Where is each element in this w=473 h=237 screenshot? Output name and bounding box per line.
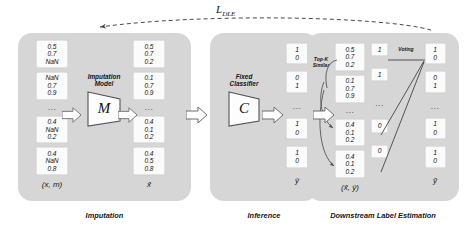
fixed-classifier-title-line1: Fixed — [236, 73, 253, 80]
arrow-imputation-to-inference — [186, 106, 208, 124]
fixed-classifier-shape: C — [225, 88, 263, 128]
vector-block: 0.10.70.9 — [133, 72, 165, 100]
vector-ellipsis: ⋯ — [48, 107, 57, 113]
vector-block: 10 — [286, 118, 308, 139]
vector-value: 0 — [295, 54, 299, 62]
vector-block: 10 — [425, 118, 446, 139]
vector-block: 1 — [371, 43, 388, 56]
vector-stack-label: (x̂, ŷ) — [341, 183, 359, 192]
vector-value: 0.2 — [145, 133, 154, 141]
arrow-inference-to-downstream — [313, 106, 335, 124]
vector-value: 1 — [295, 149, 299, 157]
vector-value: 0.9 — [346, 92, 355, 100]
imputation-model-title-line1: Imputation — [88, 73, 121, 80]
vector-value: 0.4 — [346, 153, 355, 161]
vector-value: 0.4 — [48, 118, 57, 126]
vector-value: 1 — [295, 82, 299, 90]
caption-inference: Inference — [210, 211, 318, 220]
vector-value: 1 — [433, 149, 437, 157]
vector-stack-label: (x, m) — [42, 180, 62, 189]
vector-value: 0.2 — [346, 61, 355, 69]
vector-value: 1 — [378, 46, 382, 54]
vector-block: 0.40.10.2 — [335, 150, 365, 178]
vector-block: 01 — [425, 71, 446, 92]
imputation-model-title-line2: Model — [95, 80, 113, 87]
vector-stack-label: x̂ — [147, 180, 151, 189]
annotation-voting: Voting — [388, 47, 424, 53]
vector-block: 10 — [286, 146, 308, 167]
vector-value: 0.4 — [346, 121, 355, 129]
stack-final-y-tilde: 1001⋯1010ỹ — [424, 43, 446, 185]
vector-value: 0.4 — [145, 150, 154, 158]
vector-stack-label: ỹ — [433, 176, 437, 185]
vector-block: 01 — [286, 71, 308, 92]
vector-ellipsis: ⋯ — [431, 106, 440, 112]
vector-value: 0.8 — [145, 165, 154, 173]
vector-stack-label: ŷ — [295, 176, 299, 185]
vector-value: 1 — [295, 120, 299, 128]
vector-value: 0 — [433, 129, 437, 137]
vector-value: 0.1 — [145, 126, 154, 134]
vector-value: 0 — [433, 54, 437, 62]
arrow-input-to-model — [62, 106, 82, 124]
vector-value: 0 — [433, 74, 437, 82]
vector-value: 0.1 — [346, 129, 355, 137]
vector-value: 0 — [295, 74, 299, 82]
vector-block: 0.4NaN0.8 — [36, 147, 68, 175]
vector-value: 0.9 — [145, 89, 154, 97]
fixed-classifier-title-line2: Classifier — [230, 80, 259, 87]
vector-block: 0.10.70.9 — [335, 75, 365, 103]
stack-downstream-y: 11⋯00 — [371, 43, 388, 170]
vector-ellipsis: ⋯ — [145, 107, 154, 113]
figure-canvas: 0.50.7NaNNaN0.70.9⋯0.4NaN0.20.4NaN0.8(x,… — [0, 0, 473, 237]
vector-value: 0.7 — [346, 53, 355, 61]
vector-value: 0 — [378, 122, 382, 130]
vector-value: 1 — [295, 46, 299, 54]
vector-value: NaN — [46, 74, 59, 82]
vector-value: 1 — [378, 71, 382, 79]
vector-value: NaN — [46, 157, 59, 165]
vector-block: 10 — [425, 146, 446, 167]
vector-value: 0.4 — [145, 118, 154, 126]
vector-value: 1 — [433, 120, 437, 128]
vector-value: 0.7 — [346, 85, 355, 93]
loss-label: LDLE — [216, 3, 235, 18]
vector-value: 0 — [295, 157, 299, 165]
fixed-classifier-title: Fixed Classifier — [216, 73, 272, 87]
vector-block: 0 — [371, 145, 388, 158]
vector-block: 0.50.70.2 — [133, 40, 165, 68]
vector-value: 0.7 — [48, 82, 57, 90]
vector-block: 10 — [425, 43, 446, 64]
vector-value: NaN — [46, 58, 59, 66]
vector-value: 0.2 — [145, 58, 154, 66]
vector-value: 0 — [378, 147, 382, 155]
arrow-classifier-to-yhat — [262, 106, 284, 124]
arrow-model-to-output — [118, 106, 138, 124]
vector-value: 1 — [433, 82, 437, 90]
vector-block: 0 — [371, 119, 388, 132]
vector-value: 0.1 — [346, 160, 355, 168]
vector-ellipsis: ⋯ — [293, 106, 302, 112]
vector-value: 0.4 — [48, 150, 57, 158]
vector-value: 0.1 — [145, 74, 154, 82]
vector-value: 1 — [433, 46, 437, 54]
vector-block: 1 — [371, 68, 388, 81]
vector-value: 0.1 — [346, 77, 355, 85]
caption-imputation: Imputation — [18, 211, 191, 220]
vector-value: 0.2 — [346, 136, 355, 144]
annotation-top-k-similar: Top-K Similar — [306, 57, 336, 68]
vector-block: 0.50.7NaN — [36, 40, 68, 68]
stack-downstream-x: 0.50.70.20.10.70.9⋯0.40.10.20.40.10.2(x̂… — [335, 43, 365, 192]
vector-value: 0.5 — [145, 157, 154, 165]
vector-value: 0.7 — [145, 50, 154, 58]
annotation-top-k-line2: Similar — [313, 62, 330, 68]
vector-value: 0.7 — [145, 82, 154, 90]
fixed-classifier-symbol: C — [225, 100, 263, 117]
vector-value: 0.8 — [48, 165, 57, 173]
imputation-model-title: Imputation Model — [73, 73, 135, 87]
vector-value: 0.5 — [48, 43, 57, 51]
caption-downstream: Downstream Label Estimation — [307, 211, 459, 220]
vector-value: NaN — [46, 126, 59, 134]
vector-value: 0 — [433, 157, 437, 165]
vector-value: 0 — [295, 129, 299, 137]
